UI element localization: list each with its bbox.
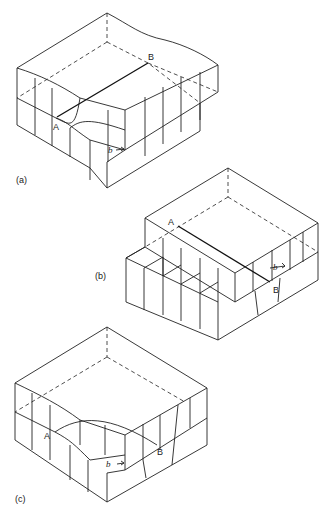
label-burgers: b [106,459,111,469]
caption-c: (c) [15,494,26,504]
label-burgers: b [108,145,113,155]
panel-b: A B b (b) [95,168,318,340]
label-b: B [148,52,154,62]
label-a: A [44,431,50,441]
label-b: B [273,285,279,295]
dislocation-diagram: A B b (a) A B b (b) [0,0,329,512]
label-b: B [157,447,163,457]
panel-a: A B b (a) [16,13,218,188]
panel-c: A B b (c) [15,327,207,504]
label-a: A [53,122,59,132]
caption-a: (a) [16,175,27,185]
label-burgers: b [273,262,278,272]
label-a: A [168,217,174,227]
caption-b: (b) [95,271,106,281]
